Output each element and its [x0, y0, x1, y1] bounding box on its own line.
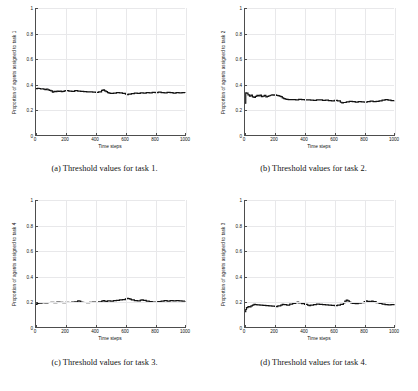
y-axis-label-d: Proportion of agents assigned to task 3 — [219, 200, 230, 328]
x-tick-mark — [275, 133, 276, 136]
gridline-vertical — [186, 8, 187, 135]
y-tick-mark — [35, 251, 38, 252]
y-tick-label: 0 — [239, 326, 242, 331]
x-tick-label: 1000 — [389, 137, 399, 142]
series-line-a — [36, 8, 185, 135]
x-axis-label-b: Time steps — [244, 144, 394, 149]
y-axis-label-c: Proportion of agents assigned to task 4 — [10, 200, 21, 328]
gridline-vertical — [186, 200, 187, 327]
gridline-horizontal — [36, 110, 185, 111]
plot-d: Proportion of agents assigned to task 3 … — [221, 200, 406, 350]
data-series-path — [36, 298, 185, 304]
caption-d: (d) Threshold values for task 4. — [260, 358, 367, 367]
gridline-vertical — [305, 8, 306, 135]
y-tick-mark — [244, 34, 247, 35]
x-tick-label: 1000 — [389, 329, 399, 334]
plot-b: Proportion of agents assigned to task 2 … — [221, 8, 406, 158]
x-tick-mark — [156, 325, 157, 328]
x-tick-label: 200 — [270, 329, 278, 334]
y-tick-label: 1 — [239, 6, 242, 11]
gridline-horizontal — [36, 34, 185, 35]
gridline-horizontal — [245, 85, 394, 86]
series-line-c — [36, 200, 185, 327]
series-line-b — [245, 8, 394, 135]
y-tick-label: 0.6 — [236, 57, 242, 62]
gridline-vertical — [96, 200, 97, 327]
gridline-horizontal — [245, 8, 394, 9]
subfigure-a: Proportion of agents assigned to task 1 … — [0, 0, 209, 190]
y-tick-mark — [35, 8, 38, 9]
plot-a: Proportion of agents assigned to task 1 … — [12, 8, 197, 158]
y-tick-label: 1 — [239, 198, 242, 203]
gridline-vertical — [335, 200, 336, 327]
y-tick-label: 0 — [30, 326, 33, 331]
y-tick-label: 0.2 — [27, 300, 33, 305]
gridline-vertical — [275, 200, 276, 327]
x-tick-mark — [394, 325, 395, 328]
x-tick-label: 600 — [330, 329, 338, 334]
gridline-vertical — [126, 200, 127, 327]
gridline-vertical — [275, 8, 276, 135]
y-tick-mark — [35, 110, 38, 111]
x-tick-mark — [126, 325, 127, 328]
x-tick-mark — [126, 133, 127, 136]
gridline-horizontal — [245, 302, 394, 303]
x-tick-label: 200 — [270, 137, 278, 142]
gridline-vertical — [305, 200, 306, 327]
x-tick-mark — [156, 133, 157, 136]
gridline-horizontal — [245, 200, 394, 201]
y-tick-mark — [244, 226, 247, 227]
x-tick-label: 600 — [121, 137, 129, 142]
y-tick-mark — [244, 251, 247, 252]
gridline-horizontal — [36, 302, 185, 303]
y-tick-mark — [35, 226, 38, 227]
plot-c: Proportion of agents assigned to task 4 … — [12, 200, 197, 350]
gridline-horizontal — [36, 200, 185, 201]
y-tick-mark — [35, 59, 38, 60]
gridline-horizontal — [245, 277, 394, 278]
y-tick-label: 0.2 — [236, 300, 242, 305]
y-tick-mark — [244, 135, 247, 136]
x-tick-label: 400 — [91, 329, 99, 334]
x-tick-label: 0 — [34, 137, 37, 142]
y-tick-mark — [35, 302, 38, 303]
x-tick-mark — [394, 133, 395, 136]
gridline-horizontal — [245, 59, 394, 60]
y-tick-label: 0 — [239, 134, 242, 139]
gridline-vertical — [335, 8, 336, 135]
y-tick-mark — [35, 277, 38, 278]
data-series-path — [245, 93, 394, 103]
y-tick-mark — [244, 85, 247, 86]
x-tick-label: 600 — [330, 137, 338, 142]
gridline-vertical — [96, 8, 97, 135]
gridline-horizontal — [36, 8, 185, 9]
x-tick-mark — [335, 133, 336, 136]
y-tick-label: 0.4 — [236, 82, 242, 87]
x-axis-label-d: Time steps — [244, 336, 394, 341]
x-tick-label: 1000 — [180, 329, 190, 334]
x-tick-mark — [96, 133, 97, 136]
y-tick-label: 1 — [30, 198, 33, 203]
y-axis-label-b: Proportion of agents assigned to task 2 — [219, 8, 230, 136]
x-axis-label-c: Time steps — [35, 336, 185, 341]
y-tick-label: 0.8 — [27, 223, 33, 228]
data-series-path — [36, 88, 185, 94]
y-tick-labels-d: 00.20.40.60.81 — [230, 200, 243, 328]
gridline-vertical — [365, 200, 366, 327]
threshold-values-figure: Proportion of agents assigned to task 1 … — [0, 0, 418, 391]
subfigure-b: Proportion of agents assigned to task 2 … — [209, 0, 418, 190]
x-tick-mark — [365, 133, 366, 136]
caption-a: (a) Threshold values for task 1. — [51, 164, 157, 173]
gridline-vertical — [156, 200, 157, 327]
gridline-vertical — [395, 200, 396, 327]
subfigure-d: Proportion of agents assigned to task 3 … — [209, 190, 418, 391]
y-tick-label: 0.8 — [236, 31, 242, 36]
y-tick-label: 0.8 — [27, 31, 33, 36]
x-tick-mark — [185, 133, 186, 136]
x-tick-label: 200 — [61, 137, 69, 142]
x-tick-mark — [96, 325, 97, 328]
y-tick-mark — [35, 200, 38, 201]
x-tick-mark — [335, 325, 336, 328]
gridline-horizontal — [245, 34, 394, 35]
y-tick-mark — [244, 110, 247, 111]
